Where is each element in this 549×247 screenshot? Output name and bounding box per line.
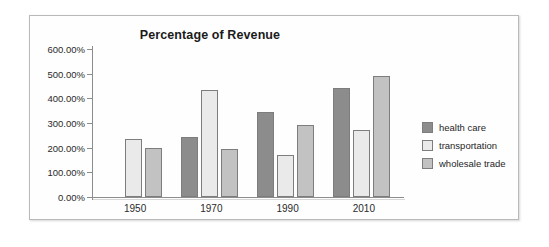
y-axis-tick [87, 74, 93, 75]
x-axis-label-1970: 1970 [200, 203, 222, 214]
bar-group [181, 49, 238, 197]
bar-health-care-2010 [333, 88, 350, 197]
y-axis-tick-label: 300.00% [47, 118, 85, 129]
chart-figure: Percentage of Revenue 600.00%500.00%400.… [29, 15, 519, 220]
bar-wholesale-trade-1970 [221, 149, 238, 197]
bar-health-care-1970 [181, 137, 198, 197]
bar-wholesale-trade-1950 [145, 148, 162, 197]
bar-wholesale-trade-1990 [297, 125, 314, 197]
y-axis-tick [87, 172, 93, 173]
chart-legend: health caretransportationwholesale trade [422, 119, 506, 173]
y-axis-tick [87, 123, 93, 124]
legend-swatch-transportation [422, 140, 433, 151]
y-axis-tick [87, 197, 93, 198]
y-axis-tick-label: 100.00% [47, 167, 85, 178]
bar-wholesale-trade-2010 [373, 76, 390, 197]
bar-health-care-1990 [257, 112, 274, 197]
y-axis-tick-label: 200.00% [47, 142, 85, 153]
y-axis-tick [87, 49, 93, 50]
bar-group [333, 49, 390, 197]
y-axis-tick-label: 0.00% [58, 192, 85, 203]
y-axis-tick-label: 400.00% [47, 93, 85, 104]
legend-item-wholesale-trade: wholesale trade [422, 155, 506, 171]
legend-label: transportation [439, 140, 497, 151]
y-axis-tick [87, 98, 93, 99]
legend-item-transportation: transportation [422, 137, 506, 153]
x-axis-label-1990: 1990 [277, 203, 299, 214]
bar-transportation-1950 [125, 139, 142, 197]
bar-group [257, 49, 314, 197]
chart-title: Percentage of Revenue [30, 28, 390, 42]
bar-group [105, 49, 162, 197]
legend-label: health care [439, 122, 486, 133]
x-axis-line [92, 197, 404, 198]
x-axis-baseline-shadow [93, 199, 405, 200]
plot-area: 600.00%500.00%400.00%300.00%200.00%100.0… [93, 49, 398, 197]
y-axis-tick-label: 500.00% [47, 68, 85, 79]
x-axis-label-2010: 2010 [353, 203, 375, 214]
bar-transportation-1970 [201, 90, 218, 197]
x-axis-label-1950: 1950 [124, 203, 146, 214]
y-axis-tick [87, 148, 93, 149]
legend-swatch-wholesale-trade [422, 158, 433, 169]
legend-label: wholesale trade [439, 158, 506, 169]
y-axis-tick-label: 600.00% [47, 44, 85, 55]
legend-swatch-health-care [422, 122, 433, 133]
bar-transportation-2010 [353, 130, 370, 197]
bar-transportation-1990 [277, 155, 294, 197]
legend-item-health-care: health care [422, 119, 506, 135]
